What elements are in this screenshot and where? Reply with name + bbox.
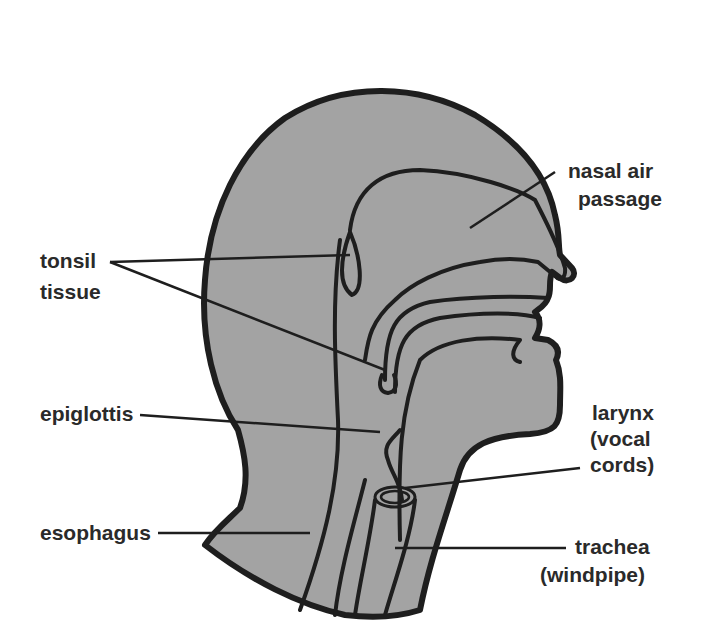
label-esophagus: esophagus [40,521,151,544]
label-epiglottis: epiglottis [40,402,133,425]
label-nasal-air-passage: nasal air passage [568,159,662,210]
label-larynx: larynx (vocal cords) [590,401,660,476]
anatomy-diagram: nasal air passage tonsil tissue epiglott… [0,0,702,641]
head-silhouette [204,91,574,617]
label-trachea: trachea (windpipe) [540,535,656,586]
label-tonsil-tissue: tonsil tissue [40,249,102,303]
